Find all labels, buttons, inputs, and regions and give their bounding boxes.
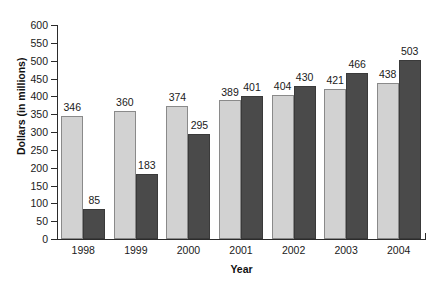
- bar-group: 374295: [166, 25, 210, 239]
- y-axis-tick-label: 0: [4, 234, 48, 245]
- x-axis-line: [57, 239, 426, 240]
- y-axis-tick: [51, 239, 57, 240]
- bar-value-label: 360: [108, 97, 142, 108]
- bar-series-light-2002: [272, 95, 294, 239]
- y-axis-tick: [51, 168, 57, 169]
- y-axis-tick: [51, 43, 57, 44]
- x-axis-tick-label: 1998: [57, 245, 110, 256]
- bar-series-dark-1998: [83, 209, 105, 239]
- bar-value-label: 183: [130, 160, 164, 171]
- x-axis-tick-label: 1999: [110, 245, 163, 256]
- bar-series-dark-2001: [241, 96, 263, 239]
- bar-series-dark-2000: [188, 134, 210, 239]
- y-axis-tick-label: 450: [4, 74, 48, 85]
- bar-group: 34685: [61, 25, 105, 239]
- y-axis-tick-label: 400: [4, 91, 48, 102]
- bar-series-dark-2003: [346, 73, 368, 239]
- bar-series-dark-2004: [399, 60, 421, 239]
- x-axis-tick-label: 2000: [162, 245, 215, 256]
- x-axis-tick-label: 2001: [215, 245, 268, 256]
- bar-value-label: 346: [55, 102, 89, 113]
- x-axis-end-tick: [425, 233, 426, 240]
- y-axis-tick: [51, 221, 57, 222]
- bar-group: 421466: [324, 25, 368, 239]
- bar-value-label: 401: [235, 82, 269, 93]
- y-axis-tick: [51, 61, 57, 62]
- y-axis-tick-label: 50: [4, 216, 48, 227]
- y-axis-tick: [51, 203, 57, 204]
- bar-value-label: 430: [288, 72, 322, 83]
- y-axis-tick: [51, 96, 57, 97]
- y-axis-tick-label: 300: [4, 127, 48, 138]
- bar-value-label: 503: [393, 46, 427, 57]
- bar-group: 360183: [114, 25, 158, 239]
- y-axis-tick: [51, 186, 57, 187]
- y-axis-tick: [51, 114, 57, 115]
- bar-series-light-2003: [324, 89, 346, 239]
- y-axis-tick-label: 600: [4, 20, 48, 31]
- bar-group: 404430: [272, 25, 316, 239]
- x-axis-title: Year: [57, 264, 426, 275]
- y-axis-tick-labels: 050100150200250300350400450500550600: [0, 0, 48, 281]
- bar-group: 438503: [377, 25, 421, 239]
- bar-group: 389401: [219, 25, 263, 239]
- x-axis-tick-label: 2003: [320, 245, 373, 256]
- chart-page: Dollars (in millions) 050100150200250300…: [0, 0, 434, 281]
- plot-area: 3468536018337429538940140443042146643850…: [57, 25, 425, 239]
- y-axis-tick-label: 100: [4, 198, 48, 209]
- y-axis-tick: [51, 150, 57, 151]
- bar-series-dark-1999: [136, 174, 158, 239]
- y-axis-tick-label: 200: [4, 163, 48, 174]
- y-axis-tick-label: 500: [4, 56, 48, 67]
- bar-series-light-1998: [61, 116, 83, 239]
- bar-value-label: 466: [340, 59, 374, 70]
- y-axis-tick-label: 350: [4, 109, 48, 120]
- x-axis-tick-label: 2004: [372, 245, 425, 256]
- y-axis-tick-label: 550: [4, 38, 48, 49]
- bar-series-light-2001: [219, 100, 241, 239]
- bar-series-dark-2002: [294, 86, 316, 239]
- bar-value-label: 85: [77, 195, 111, 206]
- bar-series-light-1999: [114, 111, 136, 239]
- y-axis-tick-label: 250: [4, 145, 48, 156]
- y-axis-tick-label: 150: [4, 181, 48, 192]
- y-axis-tick: [51, 25, 57, 26]
- y-axis-tick: [51, 79, 57, 80]
- bar-value-label: 295: [182, 120, 216, 131]
- x-axis-tick-label: 2002: [267, 245, 320, 256]
- bar-series-light-2004: [377, 83, 399, 239]
- y-axis-tick: [51, 132, 57, 133]
- bar-value-label: 374: [160, 92, 194, 103]
